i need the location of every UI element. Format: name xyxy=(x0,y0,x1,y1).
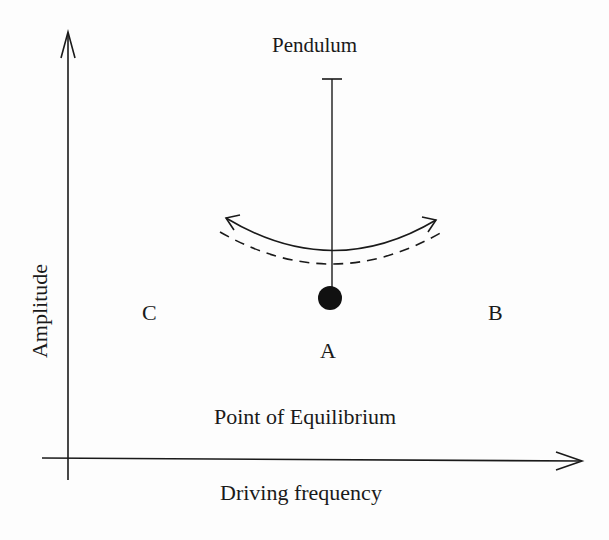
y-axis-label: Amplitude xyxy=(27,256,53,366)
pendulum xyxy=(318,79,342,310)
point-a-label: A xyxy=(320,338,336,364)
x-axis xyxy=(42,452,582,470)
pendulum-diagram: Pendulum C B A Point of Equilibrium Driv… xyxy=(0,0,609,540)
y-axis xyxy=(61,32,75,480)
dashed-arc xyxy=(220,232,442,264)
diagram-graphics xyxy=(0,0,609,540)
swing-arc xyxy=(226,215,436,251)
x-axis-label: Driving frequency xyxy=(220,480,382,506)
equilibrium-label: Point of Equilibrium xyxy=(214,404,396,430)
point-b-label: B xyxy=(488,300,503,326)
diagram-title: Pendulum xyxy=(272,33,357,58)
pendulum-bob xyxy=(318,286,342,310)
point-c-label: C xyxy=(142,300,157,326)
